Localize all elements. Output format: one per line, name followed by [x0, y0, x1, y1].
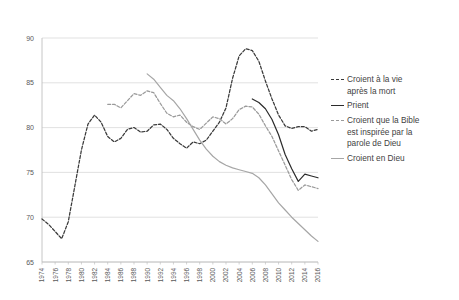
x-axis-ticks: 1974197619781980198219841986198819901992… — [38, 262, 321, 282]
svg-text:2008: 2008 — [262, 268, 269, 283]
svg-text:1992: 1992 — [157, 268, 164, 283]
svg-text:2000: 2000 — [209, 268, 216, 283]
legend-line-icon — [331, 100, 344, 112]
legend-entry-2[interactable]: Croient que la Bible est inspirée par la… — [331, 115, 457, 150]
svg-text:75: 75 — [26, 169, 34, 176]
chart-container: 657075808590 197419761978198019821984198… — [0, 0, 459, 300]
grid-lines — [42, 38, 318, 262]
svg-text:1976: 1976 — [52, 268, 59, 283]
svg-text:70: 70 — [26, 214, 34, 221]
svg-text:1986: 1986 — [117, 268, 124, 283]
svg-text:1982: 1982 — [91, 268, 98, 283]
legend-entry-3[interactable]: Croient en Dieu — [331, 153, 457, 165]
legend-line-icon — [331, 74, 344, 86]
legend-label: Croient en Dieu — [347, 153, 405, 165]
svg-text:2006: 2006 — [249, 268, 256, 283]
svg-text:2012: 2012 — [288, 268, 295, 283]
svg-text:1988: 1988 — [130, 268, 137, 283]
legend-line-icon — [331, 115, 344, 127]
series-line-2 — [108, 91, 318, 190]
series-line-0 — [42, 49, 318, 239]
series-line-1 — [252, 99, 318, 181]
svg-text:90: 90 — [26, 35, 34, 42]
svg-text:80: 80 — [26, 124, 34, 131]
chart-legend: Croient à la vie après la mortPrientCroi… — [331, 74, 457, 168]
svg-text:65: 65 — [26, 259, 34, 266]
svg-text:2002: 2002 — [222, 268, 229, 283]
legend-entry-1[interactable]: Prient — [331, 100, 457, 112]
svg-text:2014: 2014 — [301, 268, 308, 283]
series-lines — [42, 49, 318, 242]
svg-text:1990: 1990 — [144, 268, 151, 283]
svg-text:2004: 2004 — [236, 268, 243, 283]
y-axis-ticks: 657075808590 — [26, 35, 34, 266]
svg-text:1978: 1978 — [65, 268, 72, 283]
legend-label: Croient à la vie après la mort — [347, 74, 402, 97]
svg-text:1998: 1998 — [196, 268, 203, 283]
legend-entry-0[interactable]: Croient à la vie après la mort — [331, 74, 457, 97]
svg-text:1994: 1994 — [170, 268, 177, 283]
svg-text:1974: 1974 — [38, 268, 45, 283]
svg-text:1984: 1984 — [104, 268, 111, 283]
svg-text:85: 85 — [26, 79, 34, 86]
legend-label: Prient — [347, 100, 369, 112]
svg-text:1996: 1996 — [183, 268, 190, 283]
svg-text:2016: 2016 — [314, 268, 321, 283]
svg-text:2010: 2010 — [275, 268, 282, 283]
svg-text:1980: 1980 — [78, 268, 85, 283]
legend-label: Croient que la Bible est inspirée par la… — [347, 115, 419, 150]
series-line-3 — [147, 74, 318, 242]
legend-line-icon — [331, 153, 344, 165]
